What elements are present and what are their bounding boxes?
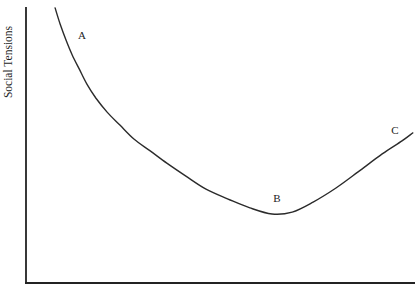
point-label-c: C [391, 125, 398, 136]
social-tensions-chart: Social Tensions A B C [0, 0, 420, 294]
point-label-a: A [78, 30, 86, 41]
point-label-b: B [273, 192, 280, 203]
y-axis-label: Social Tensions [3, 26, 15, 98]
chart-canvas [0, 0, 420, 294]
tension-curve [55, 8, 413, 214]
